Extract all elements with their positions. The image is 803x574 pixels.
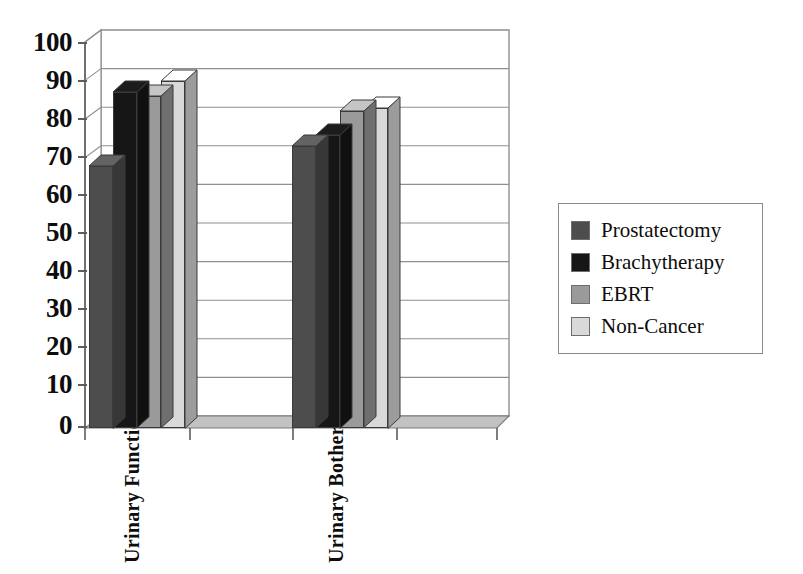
bar-side-face — [185, 70, 197, 428]
x-axis-label-urinary-bother: Urinary Bother — [325, 426, 347, 563]
bar-prostatectomy-urinary-bother — [292, 146, 316, 428]
legend-item-brachytherapy: Brachytherapy — [571, 246, 752, 278]
x-axis-label-urinary-function: Urinary Function — [121, 408, 143, 563]
bar-top-face — [292, 135, 328, 146]
bar-front-face — [292, 146, 316, 428]
legend-label: Prostatectomy — [601, 219, 721, 241]
legend-item-non-cancer: Non-Cancer — [571, 310, 752, 342]
bar-top-face — [316, 124, 352, 135]
bar-side-face — [113, 155, 125, 428]
legend: Prostatectomy Brachytherapy EBRT Non-Can… — [558, 203, 763, 354]
legend-item-prostatectomy: Prostatectomy — [571, 214, 752, 246]
legend-label: EBRT — [601, 283, 653, 305]
bar-side-face — [388, 97, 400, 428]
legend-label: Non-Cancer — [601, 315, 704, 337]
legend-swatch-icon — [571, 221, 590, 240]
legend-swatch-icon — [571, 253, 590, 272]
legend-swatch-icon — [571, 317, 590, 336]
chart-container: 100 90 80 70 60 50 40 30 20 10 0 Urinary… — [0, 0, 803, 574]
bar-top-face — [340, 100, 376, 111]
bar-side-face — [364, 100, 376, 428]
bar-top-face — [89, 155, 125, 166]
bar-side-face — [316, 135, 328, 428]
bar-side-face — [340, 124, 352, 428]
bar-top-face — [161, 70, 197, 81]
bar-side-face — [137, 81, 149, 428]
bar-side-face — [161, 85, 173, 428]
bar-front-face — [89, 166, 113, 428]
legend-label: Brachytherapy — [601, 251, 725, 273]
legend-swatch-icon — [571, 285, 590, 304]
bar-prostatectomy-urinary-function — [89, 166, 113, 428]
bar-top-face — [113, 81, 149, 92]
legend-item-ebrt: EBRT — [571, 278, 752, 310]
